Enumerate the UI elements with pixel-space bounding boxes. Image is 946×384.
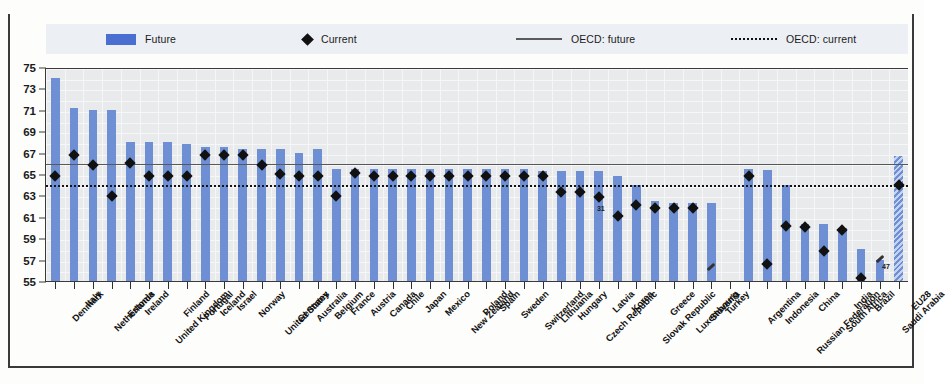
figure-bottom-rule bbox=[8, 366, 914, 368]
gridline-vertical bbox=[121, 69, 122, 281]
plot-area-wrapper: 3147 bbox=[46, 68, 908, 282]
x-tick-mark bbox=[636, 282, 637, 289]
x-tick-label-norway: Norway bbox=[256, 289, 286, 319]
x-tick-mark bbox=[55, 282, 56, 289]
bar-latvia bbox=[594, 171, 603, 281]
gridline-vertical bbox=[271, 69, 272, 281]
bar-russian-federation bbox=[782, 185, 791, 281]
gridline-vertical bbox=[889, 69, 890, 281]
x-tick-mark bbox=[524, 282, 525, 289]
y-tick-label: 59 bbox=[23, 233, 36, 245]
gridline-vertical bbox=[365, 69, 366, 281]
x-tick-mark bbox=[786, 282, 787, 289]
x-tick-mark bbox=[711, 282, 712, 289]
x-tick-mark bbox=[74, 282, 75, 289]
plot-area: 3147 bbox=[46, 68, 908, 282]
x-tick-mark bbox=[243, 282, 244, 289]
x-tick-mark bbox=[767, 282, 768, 289]
y-tick-label: 75 bbox=[23, 62, 36, 74]
gridline-vertical bbox=[683, 69, 684, 281]
legend-label-future: Future bbox=[145, 33, 176, 45]
x-tick-mark bbox=[93, 282, 94, 289]
gridline-vertical bbox=[383, 69, 384, 281]
x-tick-mark bbox=[561, 282, 562, 289]
y-tick-label: 65 bbox=[23, 169, 36, 181]
x-tick-mark bbox=[336, 282, 337, 289]
gridline-vertical bbox=[421, 69, 422, 281]
x-tick-mark bbox=[224, 282, 225, 289]
gridline-vertical bbox=[833, 69, 834, 281]
gridline-vertical bbox=[252, 69, 253, 281]
gridline-vertical bbox=[533, 69, 534, 281]
gridline-vertical bbox=[83, 69, 84, 281]
y-tick-label: 55 bbox=[23, 276, 36, 288]
x-tick-mark bbox=[168, 282, 169, 289]
y-axis: 7573716967656361595755 bbox=[8, 68, 46, 282]
gridline-vertical bbox=[402, 69, 403, 281]
gridline-vertical bbox=[777, 69, 778, 281]
gridline-vertical bbox=[290, 69, 291, 281]
legend-label-oecd-current: OECD: current bbox=[786, 33, 856, 45]
gridline-vertical bbox=[814, 69, 815, 281]
x-tick-mark bbox=[187, 282, 188, 289]
gridline-vertical bbox=[496, 69, 497, 281]
bar-india bbox=[838, 228, 847, 282]
x-tick-mark bbox=[880, 282, 881, 289]
bar-china bbox=[801, 224, 810, 281]
x-tick-mark bbox=[112, 282, 113, 289]
y-tick-label: 71 bbox=[23, 105, 36, 117]
legend-label-current: Current bbox=[321, 33, 357, 45]
x-tick-mark bbox=[374, 282, 375, 289]
gridline-vertical bbox=[158, 69, 159, 281]
gridline-vertical bbox=[646, 69, 647, 281]
x-tick-label-sweden: Sweden bbox=[519, 289, 550, 320]
x-tick-mark bbox=[805, 282, 806, 289]
reference-line-oecd-current bbox=[46, 185, 908, 187]
annotation-saudi-arabia: 47 bbox=[882, 263, 890, 270]
y-tick-label: 57 bbox=[23, 255, 36, 267]
gridline-vertical bbox=[177, 69, 178, 281]
gridline-vertical bbox=[796, 69, 797, 281]
gridline-vertical bbox=[308, 69, 309, 281]
x-tick-mark bbox=[861, 282, 862, 289]
x-tick-mark bbox=[655, 282, 656, 289]
bar-iceland bbox=[201, 147, 210, 281]
gridline-vertical bbox=[477, 69, 478, 281]
x-tick-mark bbox=[730, 282, 731, 289]
bar-netherlands bbox=[89, 110, 98, 281]
legend-item-future: Future bbox=[106, 33, 176, 45]
gridline-vertical bbox=[514, 69, 515, 281]
gridline-vertical bbox=[346, 69, 347, 281]
x-tick-mark bbox=[318, 282, 319, 289]
x-tick-label-mexico: Mexico bbox=[443, 289, 472, 318]
gridline-vertical bbox=[552, 69, 553, 281]
x-tick-mark bbox=[505, 282, 506, 289]
legend-label-oecd-future: OECD: future bbox=[571, 33, 635, 45]
gridline-vertical bbox=[327, 69, 328, 281]
chart-legend: Future Current OECD: future OECD: curren… bbox=[46, 24, 908, 54]
x-tick-mark bbox=[393, 282, 394, 289]
x-tick-mark bbox=[824, 282, 825, 289]
x-tick-mark bbox=[205, 282, 206, 289]
gridline-vertical bbox=[758, 69, 759, 281]
x-tick-mark bbox=[130, 282, 131, 289]
gridline-vertical bbox=[739, 69, 740, 281]
y-tick-label: 73 bbox=[23, 83, 36, 95]
x-tick-mark bbox=[280, 282, 281, 289]
y-tick-label: 61 bbox=[23, 212, 36, 224]
legend-item-oecd-future: OECD: future bbox=[516, 33, 635, 45]
gridline-vertical bbox=[102, 69, 103, 281]
legend-bar-swatch-icon bbox=[106, 34, 136, 45]
gridline-vertical bbox=[852, 69, 853, 281]
x-tick-mark bbox=[486, 282, 487, 289]
x-tick-mark bbox=[299, 282, 300, 289]
x-tick-mark bbox=[262, 282, 263, 289]
bar-korea bbox=[613, 176, 622, 281]
gridline-vertical bbox=[871, 69, 872, 281]
bar-norway bbox=[238, 149, 247, 281]
y-tick-label: 67 bbox=[23, 148, 36, 160]
x-tick-mark bbox=[580, 282, 581, 289]
gridline-vertical bbox=[140, 69, 141, 281]
gridline-vertical bbox=[215, 69, 216, 281]
